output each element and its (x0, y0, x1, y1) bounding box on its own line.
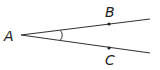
angle-arc (61, 31, 63, 41)
angle-diagram: A B C (0, 0, 160, 70)
label-a: A (3, 28, 14, 44)
point-b (107, 22, 110, 25)
ray-ac (21, 35, 150, 53)
label-c: C (105, 52, 115, 68)
label-b: B (105, 4, 115, 20)
point-c (107, 46, 110, 49)
ray-ab (21, 19, 150, 35)
